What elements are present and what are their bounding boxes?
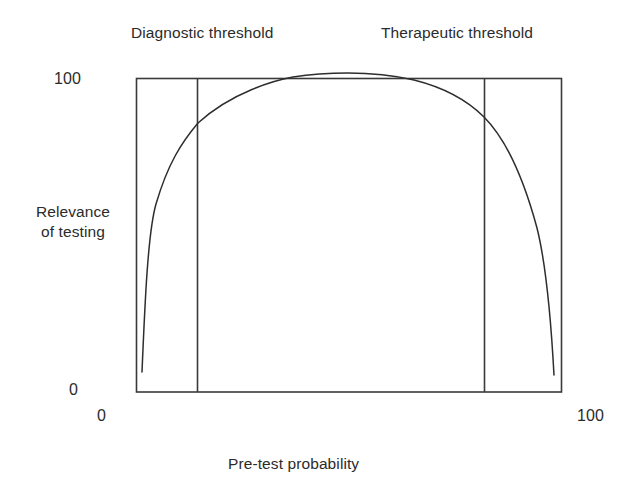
relevance-of-testing-curve (142, 73, 554, 375)
x-axis-title: Pre-test probability (228, 455, 359, 473)
diagnostic-threshold-label: Diagnostic threshold (131, 24, 273, 42)
therapeutic-threshold-label: Therapeutic threshold (381, 24, 533, 42)
y-axis-title-line-1: Relevance (18, 202, 128, 222)
x-axis-tick-0: 0 (97, 407, 106, 426)
y-axis-title-line-2: of testing (18, 222, 128, 242)
plot-frame (137, 79, 562, 393)
x-axis-tick-100: 100 (577, 407, 604, 426)
chart-figure: Diagnostic threshold Therapeutic thresho… (0, 0, 635, 493)
plot-canvas (0, 0, 635, 493)
y-axis-tick-100: 100 (54, 70, 81, 89)
y-axis-title: Relevance of testing (18, 202, 128, 242)
y-axis-tick-0: 0 (69, 381, 78, 400)
